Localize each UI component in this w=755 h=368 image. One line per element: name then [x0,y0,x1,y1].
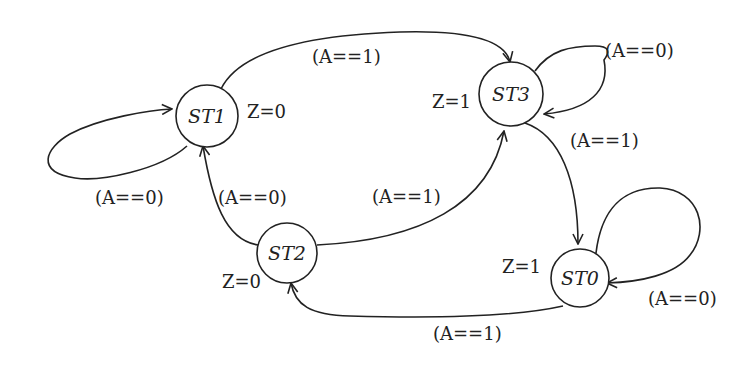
condition-st2-st3: (A==1) [372,186,441,207]
output-label-st3: Z=1 [432,91,471,112]
condition-st0-st2: (A==1) [433,323,502,344]
transition-st0-st0 [596,188,700,283]
state-label: ST2 [268,242,306,264]
output-label-st2: Z=0 [222,271,261,292]
state-st2: ST2 [257,223,317,283]
condition-st1-st3: (A==1) [312,46,381,67]
state-label: ST0 [561,267,599,289]
state-label: ST3 [492,83,530,105]
condition-st0-st0: (A==0) [648,288,717,309]
state-st3: ST3 [479,62,543,126]
output-label-st1: Z=0 [247,101,286,122]
state-st1: ST1 [176,85,238,147]
state-label: ST1 [188,105,226,127]
condition-st1-st1: (A==0) [95,187,164,208]
output-label-st0: Z=1 [502,256,541,277]
transition-st0-st2 [291,283,563,317]
state-diagram: ST1 ST3 ST2 ST0 Z=0 Z=1 Z=0 Z=1 (A==0) (… [0,0,755,368]
state-st0: ST0 [551,249,609,307]
condition-st3-st0: (A==1) [570,130,639,151]
transition-st1-st1 [48,109,187,179]
condition-st2-st1: (A==0) [218,187,287,208]
transition-st3-st3 [535,46,608,114]
condition-st3-st3: (A==0) [605,40,674,61]
